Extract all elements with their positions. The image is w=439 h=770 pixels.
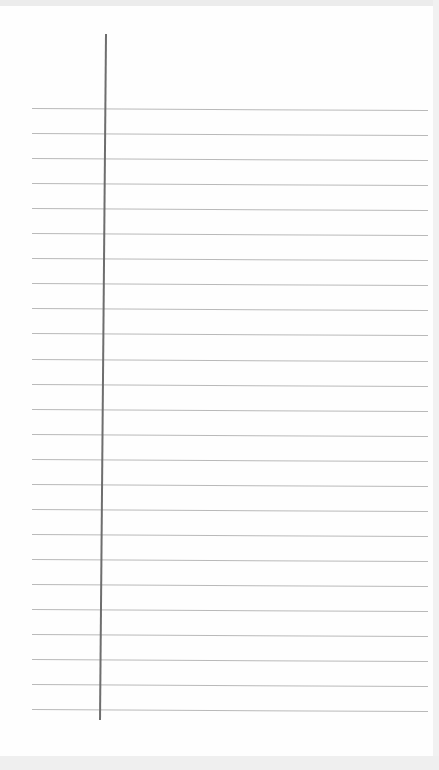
right-edge-shadow: [433, 0, 439, 770]
ruled-line: [32, 133, 428, 136]
ruled-line: [32, 409, 428, 412]
bottom-edge-shadow: [0, 756, 439, 770]
ruled-line: [32, 283, 428, 286]
ruled-line: [32, 359, 428, 362]
ruled-line: [32, 584, 428, 587]
ruled-line: [32, 208, 428, 211]
ruled-line: [32, 333, 428, 336]
ruled-line: [32, 233, 428, 236]
margin-line: [99, 34, 106, 720]
ruled-line: [32, 183, 428, 186]
ruled-line: [32, 509, 428, 512]
ruled-line: [32, 308, 428, 311]
ruled-line: [32, 108, 428, 111]
ruled-line: [32, 484, 428, 487]
top-edge-shadow: [0, 0, 439, 6]
ruled-line: [32, 384, 428, 387]
ruled-line: [32, 534, 428, 537]
ruled-line: [32, 709, 428, 712]
ruled-line: [32, 559, 428, 562]
ruled-line: [32, 434, 428, 437]
ruled-line: [32, 659, 428, 662]
ruled-line: [32, 258, 428, 261]
ruled-line: [32, 459, 428, 462]
ruled-line: [32, 634, 428, 637]
ruled-line: [32, 684, 428, 687]
ruled-line: [32, 609, 428, 612]
ruled-line: [32, 158, 428, 161]
notebook-page: [0, 0, 439, 770]
